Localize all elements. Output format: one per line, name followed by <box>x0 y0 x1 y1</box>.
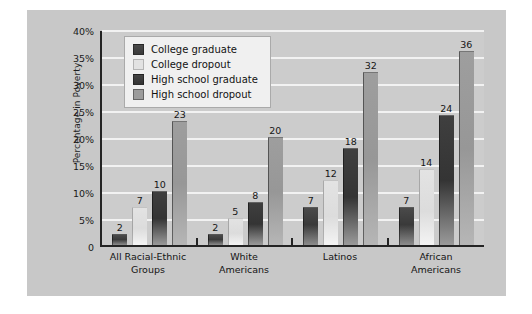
legend-item[interactable]: High school dropout <box>133 87 258 102</box>
bar[interactable] <box>268 137 283 245</box>
bar[interactable] <box>303 207 318 245</box>
chart-figure: Percentage in Poverty 40%35%30%25%20%15%… <box>27 10 506 296</box>
bar[interactable] <box>172 121 187 245</box>
bar-group: 7142436 <box>389 31 485 245</box>
x-axis-tick-label: All Racial-EthnicGroups <box>100 250 196 276</box>
y-axis-tick-label: 30% <box>27 80 94 91</box>
bar-item[interactable]: 14 <box>419 31 434 245</box>
bar-value-label: 32 <box>365 60 377 71</box>
bar-value-label: 18 <box>345 136 357 147</box>
x-axis-tick-label: AfricanAmericans <box>388 250 484 276</box>
bar[interactable] <box>439 115 454 245</box>
bar-item[interactable]: 24 <box>439 31 454 245</box>
bar[interactable] <box>459 51 474 245</box>
legend-label: College graduate <box>151 44 237 55</box>
bar-value-label: 20 <box>269 125 281 136</box>
legend-item[interactable]: College dropout <box>133 57 258 72</box>
x-axis-tick-label-line: Groups <box>100 263 196 276</box>
x-axis-tick-labels: All Racial-EthnicGroupsWhiteAmericansLat… <box>100 250 484 276</box>
bar-value-label: 2 <box>212 222 218 233</box>
y-axis-tick-label: 20% <box>27 134 94 145</box>
legend-swatch-icon <box>133 59 144 70</box>
legend-item[interactable]: College graduate <box>133 42 258 57</box>
bar[interactable] <box>399 207 414 245</box>
bar-value-label: 23 <box>174 109 186 120</box>
bar-value-label: 10 <box>154 179 166 190</box>
y-axis-tick-label: 40% <box>27 26 94 37</box>
legend-swatch-icon <box>133 89 144 100</box>
bar-group: 7121832 <box>293 31 389 245</box>
bar-value-label: 2 <box>117 222 123 233</box>
bar-value-label: 8 <box>252 190 258 201</box>
x-axis-tick-label: WhiteAmericans <box>196 250 292 276</box>
bar[interactable] <box>208 234 223 245</box>
x-axis-tick-label-line: African <box>388 250 484 263</box>
legend-swatch-icon <box>133 74 144 85</box>
bar-value-label: 7 <box>137 195 143 206</box>
legend-label: High school graduate <box>151 74 258 85</box>
bar[interactable] <box>112 234 127 245</box>
bar-value-label: 7 <box>308 195 314 206</box>
y-axis-tick-label: 15% <box>27 161 94 172</box>
bar-value-label: 12 <box>325 168 337 179</box>
bar[interactable] <box>419 169 434 245</box>
legend-label: High school dropout <box>151 89 251 100</box>
bar[interactable] <box>152 191 167 245</box>
x-axis-tick-label-line: Americans <box>388 263 484 276</box>
y-axis-tick-label: 10% <box>27 188 94 199</box>
bar-item[interactable]: 7 <box>399 31 414 245</box>
bar-value-label: 14 <box>420 157 432 168</box>
x-axis-tick-label: Latinos <box>292 250 388 276</box>
x-axis-tick-label-line: Americans <box>196 263 292 276</box>
bar-value-label: 5 <box>232 206 238 217</box>
bar[interactable] <box>323 180 338 245</box>
bar[interactable] <box>248 202 263 245</box>
bar[interactable] <box>343 148 358 245</box>
bar-item[interactable]: 36 <box>459 31 474 245</box>
bar-value-label: 36 <box>460 39 472 50</box>
legend-item[interactable]: High school graduate <box>133 72 258 87</box>
y-axis-tick-label: 0 <box>27 242 94 253</box>
bar-item[interactable]: 18 <box>343 31 358 245</box>
bar-item[interactable]: 12 <box>323 31 338 245</box>
bar-value-label: 24 <box>440 103 452 114</box>
chart-legend: College graduateCollege dropoutHigh scho… <box>124 36 271 108</box>
y-axis-tick-label: 35% <box>27 53 94 64</box>
legend-label: College dropout <box>151 59 231 70</box>
bar-value-label: 7 <box>403 195 409 206</box>
x-axis-tick-label-line: All Racial-Ethnic <box>100 250 196 263</box>
legend-swatch-icon <box>133 44 144 55</box>
bar-item[interactable]: 7 <box>303 31 318 245</box>
x-axis-tick-label-line: White <box>196 250 292 263</box>
y-axis-tick-label: 25% <box>27 107 94 118</box>
bar[interactable] <box>132 207 147 245</box>
bar[interactable] <box>363 72 378 245</box>
bar-item[interactable]: 32 <box>363 31 378 245</box>
x-axis-tick-label-line: Latinos <box>292 250 388 263</box>
y-axis-tick-label: 5% <box>27 215 94 226</box>
bar[interactable] <box>228 218 243 245</box>
